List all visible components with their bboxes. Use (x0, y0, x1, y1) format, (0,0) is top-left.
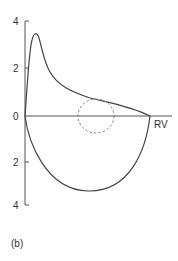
panel-label: (b) (11, 238, 23, 249)
expiratory-flow-curve (25, 34, 150, 116)
rv-label: RV (154, 119, 168, 130)
inspiratory-flow-curve (25, 116, 150, 191)
y-label-zero: 0 (13, 111, 19, 122)
y-label-upper-2: 2 (13, 63, 19, 74)
flow-volume-chart: 4 2 0 2 4 RV (0, 0, 178, 261)
y-label-upper-4: 4 (13, 16, 19, 27)
y-label-lower-2: 2 (13, 157, 19, 168)
y-label-lower-4: 4 (13, 200, 19, 211)
